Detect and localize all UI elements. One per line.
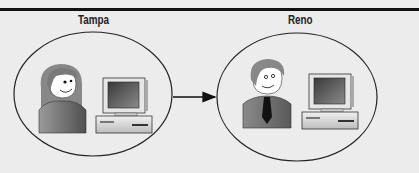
site-tampa — [14, 32, 172, 156]
desktop-computer-icon-reno — [302, 74, 358, 129]
user-male-icon — [243, 59, 291, 128]
site-reno — [217, 33, 377, 161]
user-female-icon — [39, 64, 86, 133]
desktop-computer-icon-tampa — [96, 78, 152, 133]
site-boundary-tampa — [14, 32, 172, 156]
diagram-canvas — [0, 0, 419, 173]
